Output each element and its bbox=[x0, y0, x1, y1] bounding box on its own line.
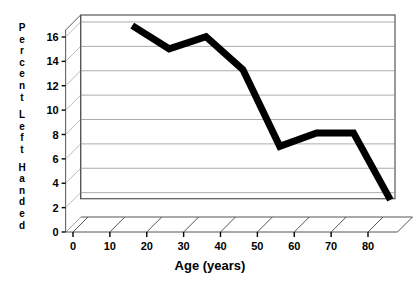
y-tick-label: 4 bbox=[53, 177, 60, 189]
floor-hatch-line bbox=[184, 217, 199, 232]
floor-hatch-line bbox=[147, 217, 162, 232]
y-tick-label: 10 bbox=[46, 104, 58, 116]
x-tick-label: 10 bbox=[104, 240, 116, 252]
chart-back-wall bbox=[81, 15, 395, 199]
y-axis-title-letter: L bbox=[14, 109, 30, 121]
y-axis-title-letter: c bbox=[14, 57, 30, 69]
chart-container: 024681012141601020304050607080 PercentLe… bbox=[0, 0, 420, 286]
floor-right-edge bbox=[398, 217, 413, 232]
chart-left-wall bbox=[66, 15, 81, 232]
y-tick-label: 2 bbox=[53, 202, 59, 214]
x-tick-label: 40 bbox=[214, 240, 226, 252]
y-axis-title-letter: n bbox=[14, 185, 30, 197]
y-axis-title: PercentLeftHanded bbox=[14, 22, 30, 231]
y-axis-title-letter: e bbox=[14, 208, 30, 220]
y-tick-label: 8 bbox=[53, 129, 59, 141]
x-tick-label: 30 bbox=[178, 240, 190, 252]
floor-hatch-line bbox=[368, 217, 383, 232]
x-tick-label: 80 bbox=[362, 240, 374, 252]
y-axis-title-letter: t bbox=[14, 92, 30, 104]
y-axis-title-letter: H bbox=[14, 162, 30, 174]
y-axis-title-letter: d bbox=[14, 220, 30, 232]
y-tick-label: 6 bbox=[53, 153, 59, 165]
y-axis-title-letter: e bbox=[14, 34, 30, 46]
x-axis-ticks: 01020304050607080 bbox=[70, 232, 374, 252]
floor-hatch-line bbox=[331, 217, 346, 232]
y-axis-title-letter: d bbox=[14, 196, 30, 208]
y-axis-title-letter: e bbox=[14, 68, 30, 80]
x-tick-label: 70 bbox=[325, 240, 337, 252]
x-axis-title: Age (years) bbox=[0, 258, 420, 273]
x-tick-label: 0 bbox=[70, 240, 76, 252]
y-tick-label: 0 bbox=[53, 226, 59, 238]
y-axis-ticks: 0246810121416 bbox=[46, 31, 65, 238]
chart-floor bbox=[66, 217, 413, 232]
line-chart-plot: 024681012141601020304050607080 bbox=[0, 0, 420, 286]
y-axis-title-letter: r bbox=[14, 45, 30, 57]
y-axis-title-letter: t bbox=[14, 144, 30, 156]
floor-hatch-line bbox=[221, 217, 236, 232]
y-axis-title-letter: n bbox=[14, 80, 30, 92]
plot-area-border bbox=[81, 15, 395, 199]
y-tick-label: 14 bbox=[46, 55, 59, 67]
y-axis-title-letter: a bbox=[14, 173, 30, 185]
x-tick-label: 50 bbox=[251, 240, 263, 252]
y-axis-title-letter: f bbox=[14, 132, 30, 144]
y-tick-label: 12 bbox=[46, 80, 58, 92]
floor-hatch-line bbox=[110, 217, 125, 232]
y-tick-label: 16 bbox=[46, 31, 58, 43]
x-tick-label: 60 bbox=[288, 240, 300, 252]
y-axis-title-letter: P bbox=[14, 22, 30, 34]
floor-hatch-line bbox=[257, 217, 272, 232]
y-axis-title-letter: e bbox=[14, 121, 30, 133]
x-tick-label: 20 bbox=[141, 240, 153, 252]
floor-hatch-line bbox=[294, 217, 309, 232]
